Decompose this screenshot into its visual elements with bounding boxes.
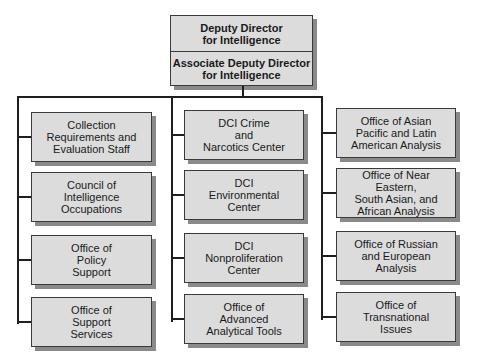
org-unit-box: Council of Intelligence Occupations <box>31 172 152 222</box>
org-unit-label: Office of Support Services <box>70 304 112 340</box>
org-unit-label: Collection Requirements and Evaluation S… <box>47 119 137 155</box>
connector-branch <box>321 192 336 194</box>
connector-column-3 <box>321 96 323 320</box>
associate-deputy-director-label: Associate Deputy Director for Intelligen… <box>173 57 311 81</box>
connector-branch <box>17 259 31 261</box>
org-unit-label: Office of Policy Support <box>71 242 112 278</box>
org-unit-label: Office of Transnational Issues <box>363 299 429 335</box>
connector-horizontal-bar <box>17 96 323 98</box>
org-unit-box: DCI Nonproliferation Center <box>184 233 304 283</box>
connector-branch <box>321 316 336 318</box>
connector-branch <box>321 132 336 134</box>
org-unit-box: Office of Support Services <box>31 297 152 347</box>
org-unit-label: DCI Crime and Narcotics Center <box>203 117 285 153</box>
org-unit-box: Office of Russian and European Analysis <box>336 231 456 281</box>
connector-branch <box>321 255 336 257</box>
connector-branch <box>171 257 184 259</box>
deputy-director-node: Deputy Director for Intelligence <box>171 16 312 51</box>
connector-column-2 <box>171 96 173 322</box>
org-unit-label: Office of Near Eastern, South Asian, and… <box>341 169 451 217</box>
org-unit-box: Office of Advanced Analytical Tools <box>184 294 304 344</box>
connector-branch <box>17 321 31 323</box>
org-unit-box: Office of Near Eastern, South Asian, and… <box>336 168 456 218</box>
org-unit-label: Council of Intelligence Occupations <box>61 179 122 215</box>
org-unit-label: DCI Environmental Center <box>209 177 279 213</box>
connector-branch <box>171 134 184 136</box>
deputy-director-label: Deputy Director for Intelligence <box>200 22 283 46</box>
associate-deputy-director-node: Associate Deputy Director for Intelligen… <box>171 51 312 86</box>
directorate-head-box: Deputy Director for Intelligence Associa… <box>170 15 313 86</box>
org-unit-box: Office of Asian Pacific and Latin Americ… <box>336 108 456 158</box>
org-unit-box: Office of Policy Support <box>31 235 152 285</box>
org-unit-box: Collection Requirements and Evaluation S… <box>31 112 152 162</box>
org-unit-label: Office of Advanced Analytical Tools <box>206 301 282 337</box>
org-unit-label: Office of Russian and European Analysis <box>354 238 438 274</box>
connector-branch <box>17 196 31 198</box>
connector-branch <box>171 318 184 320</box>
org-unit-box: DCI Environmental Center <box>184 170 304 220</box>
connector-branch <box>17 136 31 138</box>
org-unit-box: Office of Transnational Issues <box>336 292 456 342</box>
connector-branch <box>171 194 184 196</box>
org-unit-label: DCI Nonproliferation Center <box>205 240 283 276</box>
org-unit-label: Office of Asian Pacific and Latin Americ… <box>351 115 441 151</box>
connector-column-1 <box>17 96 19 324</box>
org-unit-box: DCI Crime and Narcotics Center <box>184 110 304 160</box>
